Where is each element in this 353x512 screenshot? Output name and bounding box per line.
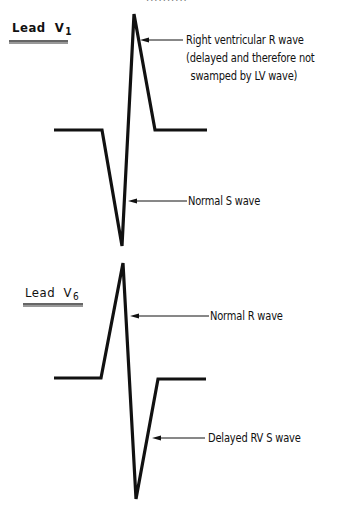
- annotation-normal-s-wave: Normal S wave: [188, 192, 260, 210]
- lead-v6-title: Lead V6: [25, 285, 79, 302]
- lead-letter: V: [64, 285, 73, 300]
- lead-v1-title: Lead V1: [12, 20, 72, 37]
- annotation-line: Normal S wave: [188, 192, 260, 210]
- annotation-delayed-rv-s-wave: Delayed RV S wave: [208, 429, 301, 447]
- annotation-line: swamped by LV wave): [186, 67, 315, 85]
- annotation-right-ventricular-r-wave: Right ventricular R wave (delayed and th…: [186, 31, 315, 85]
- lead-letter: V: [55, 20, 65, 35]
- arrowhead-icon: [140, 38, 149, 43]
- lead-subscript: 1: [65, 26, 72, 37]
- ecg-waveform-v1: [54, 14, 207, 246]
- arrowhead-icon: [130, 314, 139, 319]
- lead-word: Lead: [12, 20, 46, 35]
- annotation-normal-r-wave: Normal R wave: [210, 307, 283, 325]
- lead-word: Lead: [25, 285, 55, 300]
- arrowhead-icon: [128, 199, 137, 204]
- annotation-line: Right ventricular R wave: [186, 31, 315, 49]
- arrowhead-icon: [152, 436, 161, 441]
- annotation-line: Delayed RV S wave: [208, 429, 301, 447]
- annotation-line: Normal R wave: [210, 307, 283, 325]
- lead-subscript: 6: [73, 291, 79, 302]
- waveform-layer: [9, 14, 209, 499]
- annotation-line: (delayed and therefore not: [186, 49, 315, 67]
